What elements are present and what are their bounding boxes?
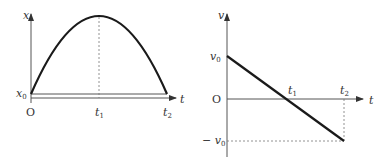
- v0-label: v0: [210, 50, 221, 64]
- kinematics-diagrams: x t O x0 t1 t2 v t O v0 − v0 t1 t2: [0, 0, 391, 168]
- position-time-graph: x t O x0 t1 t2: [16, 9, 185, 120]
- neg-v0-label: − v0: [202, 134, 225, 148]
- v-axis-label: v: [218, 9, 225, 22]
- t1-label: t1: [288, 84, 297, 98]
- t1-label: t1: [95, 106, 104, 120]
- origin-label: O: [212, 93, 221, 106]
- y-axis-label: x: [23, 9, 30, 22]
- origin-label: O: [26, 106, 35, 119]
- t2-label: t2: [340, 84, 349, 98]
- velocity-time-graph: v t O v0 − v0 t1 t2: [202, 9, 374, 157]
- t2-label: t2: [163, 106, 172, 120]
- x0-label: x0: [16, 87, 27, 101]
- t-axis-label: t: [180, 93, 185, 106]
- t-axis-label: t: [369, 94, 374, 107]
